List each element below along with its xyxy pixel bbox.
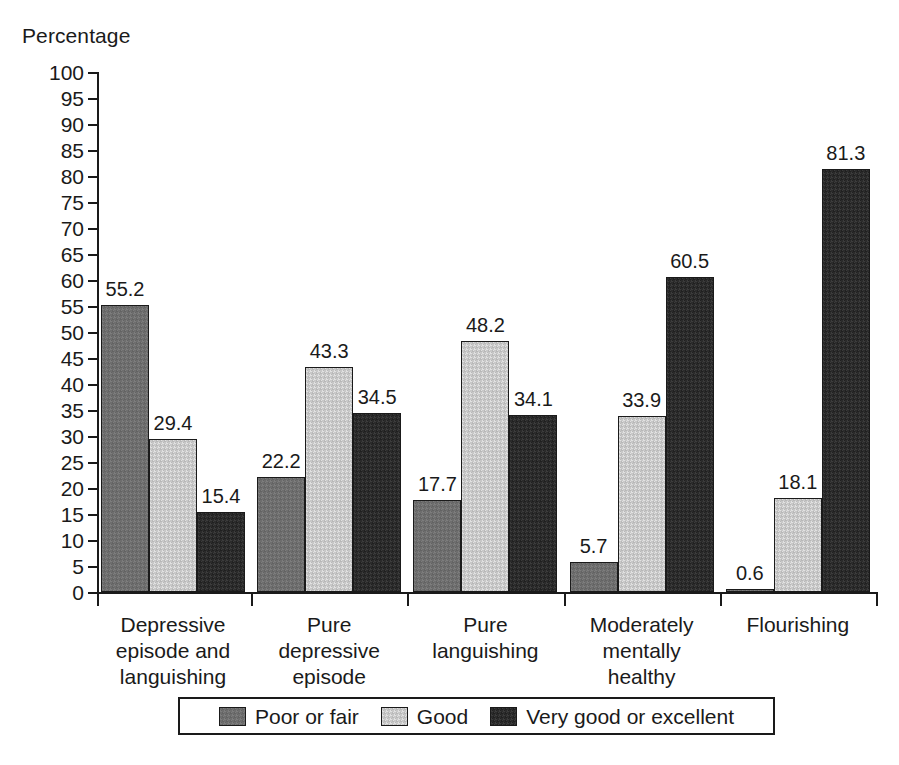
group-separator-tick	[407, 592, 409, 606]
x-axis-category-label: Depressive episode and languishing	[116, 612, 230, 690]
y-tick-mark	[88, 306, 97, 308]
legend-label: Very good or excellent	[526, 706, 734, 727]
bar	[305, 367, 353, 592]
y-tick-mark	[88, 124, 97, 126]
legend-item[interactable]: Poor or fair	[219, 706, 359, 727]
bar	[726, 589, 774, 592]
bar	[461, 341, 509, 592]
x-axis-category-label: Flourishing	[746, 612, 849, 638]
y-tick-label: 20	[61, 478, 84, 499]
axis-end-tick	[876, 592, 878, 606]
bar-value-label: 0.6	[736, 563, 764, 583]
y-tick-label: 50	[61, 322, 84, 343]
bar-value-label: 15.4	[202, 486, 241, 506]
y-tick-label: 30	[61, 426, 84, 447]
y-tick-mark	[88, 566, 97, 568]
y-tick-mark	[88, 254, 97, 256]
legend-label: Good	[417, 706, 468, 727]
bar	[618, 416, 666, 592]
x-axis-category-label: Moderately mentally healthy	[590, 612, 694, 690]
y-tick-label: 35	[61, 400, 84, 421]
y-tick-label: 5	[72, 556, 84, 577]
y-tick-mark	[88, 592, 97, 594]
bar-value-label: 43.3	[310, 341, 349, 361]
y-tick-label: 70	[61, 218, 84, 239]
group-separator-tick	[251, 592, 253, 606]
x-axis-line	[97, 592, 878, 594]
bar	[149, 439, 197, 592]
y-tick-label: 40	[61, 374, 84, 395]
bar-value-label: 48.2	[466, 315, 505, 335]
y-tick-label: 45	[61, 348, 84, 369]
bar	[353, 413, 401, 592]
legend-swatch-icon	[490, 707, 517, 726]
y-tick-mark	[88, 72, 97, 74]
y-tick-label: 15	[61, 504, 84, 525]
bar-value-label: 17.7	[418, 474, 457, 494]
y-tick-mark	[88, 410, 97, 412]
y-tick-label: 65	[61, 244, 84, 265]
y-tick-mark	[88, 540, 97, 542]
y-tick-label: 10	[61, 530, 84, 551]
legend-swatch-icon	[381, 707, 408, 726]
y-tick-mark	[88, 514, 97, 516]
group-separator-tick	[564, 592, 566, 606]
legend-item[interactable]: Good	[381, 706, 468, 727]
y-tick-label: 55	[61, 296, 84, 317]
legend-swatch-icon	[219, 707, 246, 726]
y-tick-label: 95	[61, 88, 84, 109]
bar-value-label: 55.2	[106, 279, 145, 299]
y-tick-mark	[88, 358, 97, 360]
x-axis-category-label: Pure depressive episode	[278, 612, 380, 690]
bar	[509, 415, 557, 592]
y-tick-label: 0	[72, 582, 84, 603]
bar-value-label: 81.3	[826, 143, 865, 163]
y-tick-mark	[88, 176, 97, 178]
bar	[197, 512, 245, 592]
legend-label: Poor or fair	[255, 706, 359, 727]
group-separator-tick	[720, 592, 722, 606]
bar	[822, 169, 870, 592]
axis-start-tick	[97, 592, 99, 606]
bar-value-label: 22.2	[262, 451, 301, 471]
bar-value-label: 34.5	[358, 387, 397, 407]
y-tick-label: 25	[61, 452, 84, 473]
bar	[257, 477, 305, 592]
bar	[666, 277, 714, 592]
y-tick-mark	[88, 436, 97, 438]
bar-value-label: 34.1	[514, 389, 553, 409]
bar-chart: Percentage 05101520253035404550556065707…	[0, 0, 899, 765]
bar-value-label: 18.1	[778, 472, 817, 492]
bar-value-label: 60.5	[670, 251, 709, 271]
y-tick-mark	[88, 228, 97, 230]
y-tick-mark	[88, 202, 97, 204]
y-tick-mark	[88, 462, 97, 464]
y-tick-mark	[88, 488, 97, 490]
bar	[413, 500, 461, 592]
bar-value-label: 29.4	[154, 413, 193, 433]
plot-area: 0510152025303540455055606570758085909510…	[97, 72, 878, 592]
y-tick-label: 85	[61, 140, 84, 161]
y-tick-mark	[88, 384, 97, 386]
y-tick-label: 60	[61, 270, 84, 291]
bar-value-label: 33.9	[622, 390, 661, 410]
y-tick-mark	[88, 150, 97, 152]
legend-item[interactable]: Very good or excellent	[490, 706, 734, 727]
bar	[774, 498, 822, 592]
y-tick-mark	[88, 332, 97, 334]
bar-value-label: 5.7	[580, 536, 608, 556]
y-tick-mark	[88, 280, 97, 282]
y-tick-label: 80	[61, 166, 84, 187]
y-tick-label: 75	[61, 192, 84, 213]
y-tick-label: 100	[49, 62, 84, 83]
y-tick-label: 90	[61, 114, 84, 135]
bar	[570, 562, 618, 592]
x-axis-category-label: Pure languishing	[432, 612, 538, 664]
y-tick-mark	[88, 98, 97, 100]
bar	[101, 305, 149, 592]
y-axis-line	[97, 72, 99, 593]
legend: Poor or fairGoodVery good or excellent	[178, 697, 775, 735]
y-axis-title: Percentage	[22, 24, 130, 48]
